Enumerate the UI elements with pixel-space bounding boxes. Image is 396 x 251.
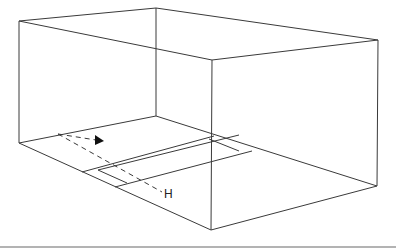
top-left-depth-edge xyxy=(19,21,212,60)
floor-rectangle-strip xyxy=(82,135,252,187)
front-right-vertical-edge xyxy=(211,60,212,230)
back-right-vertical-edge xyxy=(377,40,378,186)
strip-edge-3 xyxy=(115,151,252,187)
h-label: H xyxy=(164,187,173,201)
dashed-line-to-H xyxy=(58,134,162,192)
dashed-direction-line xyxy=(58,134,96,140)
bottom-front-edge xyxy=(211,186,377,230)
room-diagram: H xyxy=(0,0,396,251)
strip-edge-2 xyxy=(98,135,239,170)
top-back-edge xyxy=(156,8,378,40)
top-right-front-edge xyxy=(212,40,378,60)
arrowhead-icon xyxy=(95,135,104,145)
box-wireframe xyxy=(19,8,378,230)
dashed-lines xyxy=(58,134,162,192)
bottom-back-edge xyxy=(156,116,377,186)
front-top-edge xyxy=(19,8,156,21)
